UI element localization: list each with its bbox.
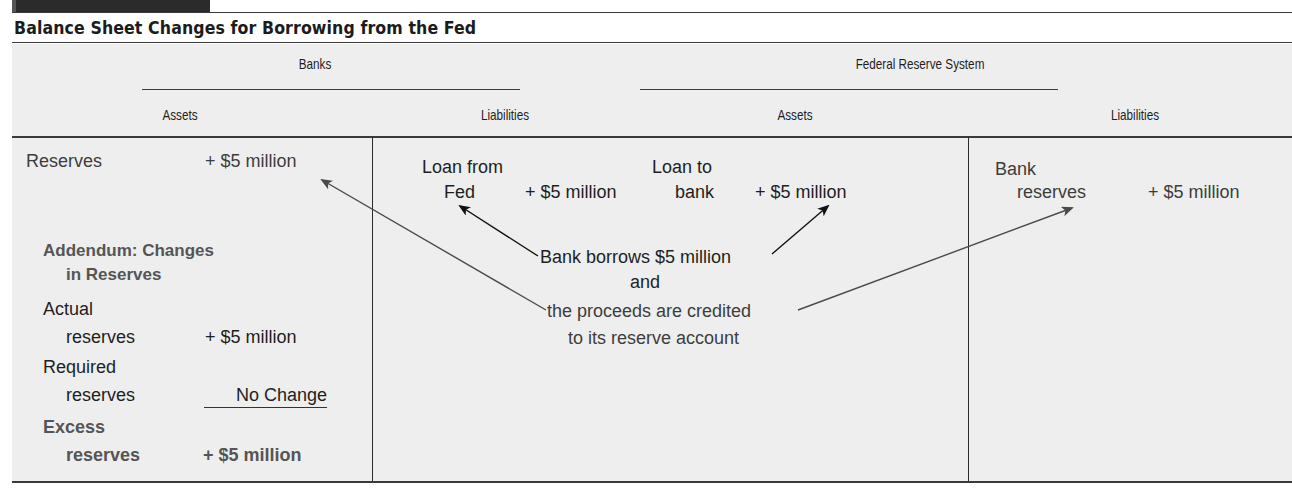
banks-group-rule xyxy=(142,89,520,90)
required-reserves-value: No Change xyxy=(204,384,327,408)
annotation-line4: to its reserve account xyxy=(568,327,739,349)
bank-reserves-value: + $5 million xyxy=(1148,181,1240,203)
bank-reserves-label-line1: Bank xyxy=(995,158,1036,180)
loan-from-fed-value: + $5 million xyxy=(525,181,617,203)
col-header-banks-liabilities: Liabilities xyxy=(466,106,544,123)
actual-reserves-value: + $5 million xyxy=(205,326,297,348)
required-reserves-label-line2: reserves xyxy=(66,384,135,406)
group-header-banks: Banks xyxy=(280,55,350,72)
group-header-fed: Federal Reserve System xyxy=(842,55,998,72)
top-rule xyxy=(12,12,1292,13)
actual-reserves-label-line1: Actual xyxy=(43,298,93,320)
figure-title: Balance Sheet Changes for Borrowing from… xyxy=(14,18,476,38)
actual-reserves-label-line2: reserves xyxy=(66,326,135,348)
excess-reserves-label-line1: Excess xyxy=(43,416,105,438)
col-header-banks-assets: Assets xyxy=(149,106,211,123)
loan-from-fed-label-line2: Fed xyxy=(444,181,475,203)
reserves-label: Reserves xyxy=(26,150,102,172)
annotation-line3: the proceeds are credited xyxy=(547,300,751,322)
addendum-heading-line2: in Reserves xyxy=(66,264,161,286)
loan-to-bank-value: + $5 million xyxy=(755,181,847,203)
addendum-heading-line1: Addendum: Changes xyxy=(43,240,214,262)
excess-reserves-value: + $5 million xyxy=(203,444,302,466)
reserves-value: + $5 million xyxy=(205,150,297,172)
fed-group-rule xyxy=(640,89,1058,90)
bottom-rule xyxy=(12,481,1292,483)
bank-reserves-label-line2: reserves xyxy=(1017,181,1086,203)
loan-to-bank-label-line1: Loan to xyxy=(652,156,712,178)
header-rule xyxy=(12,136,1292,138)
col-header-fed-liabilities: Liabilities xyxy=(1096,106,1174,123)
divider-fed xyxy=(968,137,969,481)
excess-reserves-label-line2: reserves xyxy=(66,444,140,466)
annotation-line1: Bank borrows $5 million xyxy=(540,246,731,268)
loan-to-bank-label-line2: bank xyxy=(675,181,714,203)
annotation-line2: and xyxy=(630,271,660,293)
required-reserves-label-line1: Required xyxy=(43,356,116,378)
loan-from-fed-label-line1: Loan from xyxy=(422,156,503,178)
title-rule xyxy=(12,42,1292,43)
col-header-fed-assets: Assets xyxy=(764,106,826,123)
divider-banks xyxy=(372,137,373,481)
